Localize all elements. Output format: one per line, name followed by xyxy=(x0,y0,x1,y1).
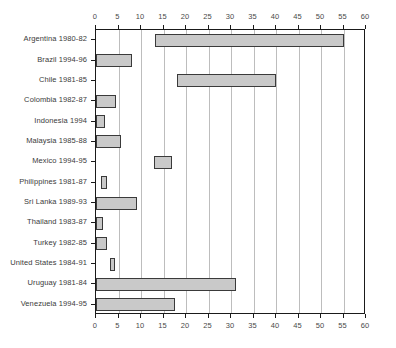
x-tick-label-top: 10 xyxy=(128,12,152,21)
tick-mark-bottom xyxy=(140,314,141,318)
x-tick-label-top: 35 xyxy=(241,12,265,21)
tick-mark-bottom xyxy=(118,314,119,318)
tick-mark-top xyxy=(253,25,254,29)
category-label: United States 1984-91 xyxy=(0,258,87,267)
category-label: Sri Lanka 1989-93 xyxy=(0,197,87,206)
tick-mark-bottom xyxy=(163,314,164,318)
category-label: Malaysia 1985-88 xyxy=(0,136,87,145)
gridline xyxy=(299,30,300,313)
x-tick-label-top: 0 xyxy=(83,12,107,21)
bar xyxy=(96,197,137,210)
x-tick-label-top: 45 xyxy=(286,12,310,21)
category-label: Colombia 1982-87 xyxy=(0,95,87,104)
x-tick-label-bottom: 35 xyxy=(241,321,265,330)
bar xyxy=(96,115,105,128)
bar xyxy=(96,54,132,67)
x-tick-label-bottom: 20 xyxy=(173,321,197,330)
category-label: Uruguay 1981-84 xyxy=(0,278,87,287)
bar xyxy=(96,298,175,311)
x-tick-label-top: 30 xyxy=(218,12,242,21)
tick-mark-top xyxy=(95,25,96,29)
bar xyxy=(96,217,103,230)
category-label: Venezuela 1994-95 xyxy=(0,299,87,308)
x-tick-label-bottom: 50 xyxy=(308,321,332,330)
x-tick-label-bottom: 10 xyxy=(128,321,152,330)
category-label: Argentina 1980-82 xyxy=(0,34,87,43)
tick-mark-top xyxy=(275,25,276,29)
bar-chart: 051015202530354045505560 Argentina 1980-… xyxy=(0,0,396,348)
category-label: Thailand 1983-87 xyxy=(0,217,87,226)
gridline xyxy=(119,30,120,313)
tick-mark-bottom xyxy=(208,314,209,318)
x-tick-label-bottom: 45 xyxy=(286,321,310,330)
x-tick-label-top: 55 xyxy=(331,12,355,21)
tick-mark-bottom xyxy=(343,314,344,318)
gridline xyxy=(164,30,165,313)
category-label: Mexico 1994-95 xyxy=(0,156,87,165)
tick-mark-top xyxy=(208,25,209,29)
gridline xyxy=(231,30,232,313)
bar xyxy=(96,237,107,250)
bar xyxy=(96,95,116,108)
category-label: Turkey 1982-85 xyxy=(0,238,87,247)
x-tick-label-bottom: 40 xyxy=(263,321,287,330)
bar xyxy=(96,135,121,148)
x-tick-label-top: 25 xyxy=(196,12,220,21)
x-tick-label-top: 40 xyxy=(263,12,287,21)
x-tick-label-top: 60 xyxy=(353,12,377,21)
tick-mark-bottom xyxy=(253,314,254,318)
x-tick-label-bottom: 0 xyxy=(83,321,107,330)
bar xyxy=(96,278,236,291)
tick-mark-top xyxy=(298,25,299,29)
x-tick-label-bottom: 55 xyxy=(331,321,355,330)
bar xyxy=(110,258,115,271)
gridline xyxy=(321,30,322,313)
plot-area xyxy=(95,29,365,314)
tick-mark-top xyxy=(185,25,186,29)
tick-mark-top xyxy=(140,25,141,29)
bar xyxy=(154,156,172,169)
tick-mark-top xyxy=(320,25,321,29)
x-tick-label-top: 50 xyxy=(308,12,332,21)
gridline xyxy=(344,30,345,313)
x-tick-label-top: 5 xyxy=(106,12,130,21)
tick-mark-bottom xyxy=(230,314,231,318)
tick-mark-bottom xyxy=(365,314,366,318)
gridline xyxy=(141,30,142,313)
tick-mark-bottom xyxy=(275,314,276,318)
bar xyxy=(177,74,276,87)
x-tick-label-bottom: 15 xyxy=(151,321,175,330)
gridline xyxy=(276,30,277,313)
tick-mark-bottom xyxy=(95,314,96,318)
x-tick-label-bottom: 60 xyxy=(353,321,377,330)
tick-mark-bottom xyxy=(320,314,321,318)
gridline xyxy=(254,30,255,313)
x-tick-label-bottom: 25 xyxy=(196,321,220,330)
tick-mark-top xyxy=(343,25,344,29)
x-tick-label-top: 20 xyxy=(173,12,197,21)
tick-mark-top xyxy=(118,25,119,29)
bar xyxy=(155,34,344,47)
tick-mark-bottom xyxy=(298,314,299,318)
tick-mark-top xyxy=(163,25,164,29)
tick-mark-bottom xyxy=(185,314,186,318)
category-label: Philippines 1981-87 xyxy=(0,177,87,186)
gridline xyxy=(209,30,210,313)
tick-mark-top xyxy=(365,25,366,29)
x-tick-label-bottom: 5 xyxy=(106,321,130,330)
category-label: Brazil 1994-96 xyxy=(0,55,87,64)
bar xyxy=(101,176,108,189)
category-label: Indonesia 1994 xyxy=(0,116,87,125)
category-label: Chile 1981-85 xyxy=(0,75,87,84)
gridline xyxy=(186,30,187,313)
x-tick-label-top: 15 xyxy=(151,12,175,21)
x-tick-label-bottom: 30 xyxy=(218,321,242,330)
tick-mark-top xyxy=(230,25,231,29)
